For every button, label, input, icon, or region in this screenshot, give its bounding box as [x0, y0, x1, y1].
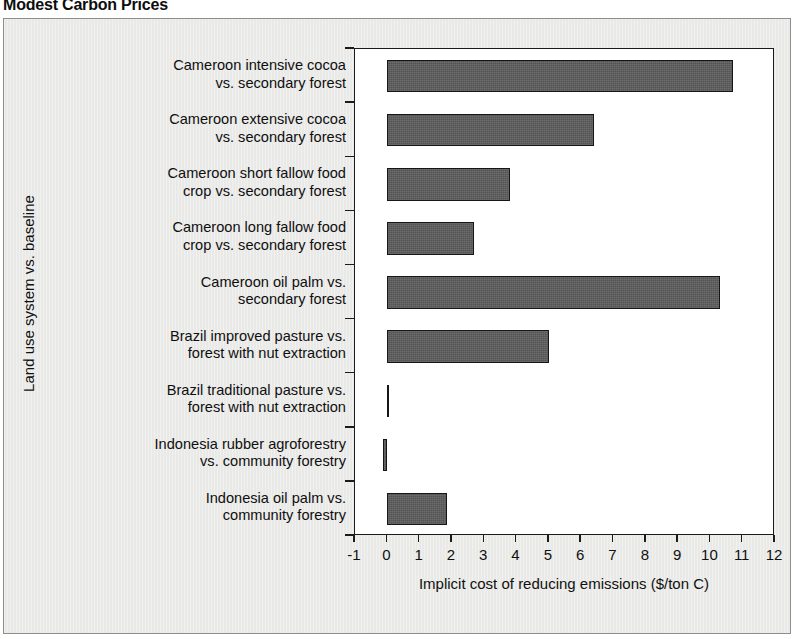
x-axis-tick [612, 535, 614, 542]
y-axis-tick [345, 372, 354, 374]
bar [387, 222, 474, 255]
category-label: Cameroon extensive cocoa vs. secondary f… [48, 111, 346, 146]
bar [387, 276, 720, 309]
category-label: Brazil improved pasture vs. forest with … [48, 328, 346, 363]
bar [387, 114, 594, 147]
chart-frame: Land use system vs. baseline Cameroon in… [3, 18, 791, 634]
figure-title: Modest Carbon Prices [0, 0, 798, 16]
x-axis-tick-label: 12 [754, 546, 794, 563]
y-axis-tick [345, 480, 354, 482]
x-axis-tick [418, 535, 420, 542]
figure-root: Modest Carbon Prices Land use system vs.… [0, 0, 798, 639]
y-axis-tick [345, 534, 354, 536]
plot-area [354, 48, 774, 535]
x-axis-title: Implicit cost of reducing emissions ($/t… [354, 575, 774, 592]
category-label: Brazil traditional pasture vs. forest wi… [48, 382, 346, 417]
category-label: Cameroon short fallow food crop vs. seco… [48, 165, 346, 200]
y-axis-tick [345, 426, 354, 428]
category-label: Cameroon oil palm vs. secondary forest [48, 274, 346, 309]
y-axis-title: Land use system vs. baseline [20, 104, 37, 484]
x-axis-tick [741, 535, 743, 542]
figure-title-bar: Modest Carbon Prices [0, 0, 798, 16]
bar [387, 168, 510, 201]
bar [387, 60, 733, 93]
x-axis-tick [353, 535, 355, 542]
y-axis-tick [345, 156, 354, 158]
y-axis-tick [345, 318, 354, 320]
chart-frame-inner: Land use system vs. baseline Cameroon in… [4, 19, 790, 633]
y-axis-tick [345, 210, 354, 212]
x-axis-tick [709, 535, 711, 542]
category-label: Cameroon intensive cocoa vs. secondary f… [48, 57, 346, 92]
x-axis-tick [773, 535, 775, 542]
category-label: Indonesia oil palm vs. community forestr… [48, 490, 346, 525]
x-axis-tick [579, 535, 581, 542]
y-axis-tick [345, 264, 354, 266]
category-label-column: Cameroon intensive cocoa vs. secondary f… [52, 48, 352, 535]
category-label: Indonesia rubber agroforestry vs. commun… [48, 436, 346, 471]
category-label: Cameroon long fallow food crop vs. secon… [48, 219, 346, 254]
bar [387, 493, 447, 526]
bar [387, 330, 549, 363]
x-axis-tick [676, 535, 678, 542]
x-axis-tick [450, 535, 452, 542]
y-axis-tick [345, 101, 354, 103]
plot-canvas [355, 49, 773, 534]
x-axis-tick [644, 535, 646, 542]
x-axis-tick [386, 535, 388, 542]
y-axis-tick [345, 47, 354, 49]
x-axis-tick [515, 535, 517, 542]
bar [387, 385, 389, 418]
bar [383, 439, 388, 472]
x-axis-tick [483, 535, 485, 542]
x-axis-tick [547, 535, 549, 542]
